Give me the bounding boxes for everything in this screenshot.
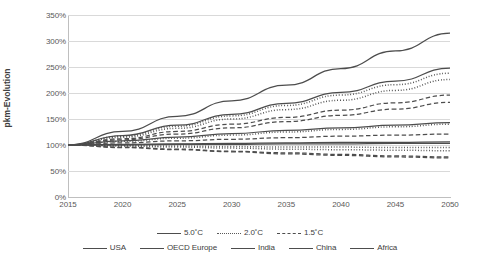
legend-label: India (258, 244, 275, 253)
legend-label: Africa (377, 244, 397, 253)
gridline (68, 15, 450, 16)
plot-area (68, 15, 450, 197)
gridline (68, 67, 450, 68)
legend-scenarios: 5.0˚C2.0˚C1.5˚C (0, 228, 480, 238)
y-axis-tick-label: 0% (4, 193, 66, 202)
legend-swatch-solid (231, 245, 255, 252)
legend-region-oecd-europe[interactable]: OECD Europe (140, 243, 217, 252)
x-axis-tick-label: 2020 (114, 200, 131, 209)
legend-scenario-5-0-c[interactable]: 5.0˚C (157, 228, 203, 237)
x-axis-spine (68, 197, 451, 198)
gridline (68, 171, 450, 172)
y-axis-tick-label: 250% (4, 63, 66, 72)
x-axis-tick-label: 2035 (278, 200, 295, 209)
legend-region-usa[interactable]: USA (83, 243, 126, 252)
legend-label: China (316, 244, 336, 253)
legend-scenario-1-5-c[interactable]: 1.5˚C (277, 228, 323, 237)
legend-region-africa[interactable]: Africa (350, 243, 397, 252)
y-axis-title: pkm-Evolution (2, 58, 12, 138)
gridline (68, 41, 450, 42)
y-axis-tick-label: 150% (4, 115, 66, 124)
x-axis-tick-label: 2030 (223, 200, 240, 209)
x-axis-tick-label: 2045 (387, 200, 404, 209)
x-axis-tick-label: 2040 (332, 200, 349, 209)
legend-swatch-solid (289, 245, 313, 252)
legend-swatch-dotted (217, 230, 241, 237)
legend-scenario-2-0-c[interactable]: 2.0˚C (217, 228, 263, 237)
legend-region-india[interactable]: India (231, 243, 275, 252)
x-axis-tick-label: 2025 (168, 200, 185, 209)
legend-region-china[interactable]: China (289, 243, 336, 252)
y-axis-tick-label: 50% (4, 167, 66, 176)
legend-label: 5.0˚C (184, 229, 203, 238)
gridline (68, 93, 450, 94)
legend-swatch-dashed (277, 230, 301, 237)
y-axis-tick-label: 100% (4, 141, 66, 150)
legend-swatch-solid (350, 245, 374, 252)
gridline (68, 119, 450, 120)
x-axis-tick-label: 2050 (441, 200, 458, 209)
y-axis-tick-label: 350% (4, 11, 66, 20)
legend-swatch-solid (157, 230, 181, 237)
legend-swatch-solid (140, 245, 164, 252)
chart-container: 0%50%100%150%200%250%300%350% pkm-Evolut… (0, 0, 480, 263)
legend-label: 1.5˚C (304, 229, 323, 238)
legend-swatch-solid (83, 245, 107, 252)
gridline (68, 145, 450, 146)
legend-label: 2.0˚C (244, 229, 263, 238)
legend-label: OECD Europe (167, 244, 217, 253)
legend-label: USA (110, 244, 126, 253)
y-axis-tick-label: 300% (4, 37, 66, 46)
x-axis-tick-label: 2015 (59, 200, 76, 209)
y-axis-tick-label: 200% (4, 89, 66, 98)
legend-regions: USAOECD EuropeIndiaChinaAfrica (0, 243, 480, 253)
